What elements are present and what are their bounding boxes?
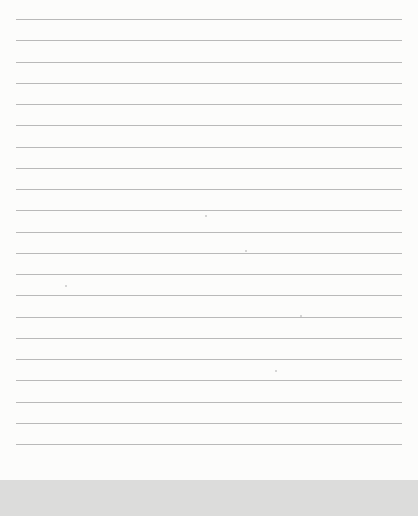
ruled-line [16, 359, 402, 360]
ruled-line [16, 147, 402, 148]
ruled-line [16, 338, 402, 339]
ruled-line [16, 402, 402, 403]
ruled-line [16, 62, 402, 63]
ruled-line [16, 423, 402, 424]
scan-speck [205, 215, 207, 217]
ruled-line [16, 380, 402, 381]
ruled-line [16, 40, 402, 41]
ruled-line [16, 274, 402, 275]
ruled-line [16, 444, 402, 445]
ruled-line [16, 295, 402, 296]
ruled-line [16, 210, 402, 211]
scan-speck [300, 315, 302, 317]
scan-speck [275, 370, 277, 372]
scan-speck [65, 285, 67, 287]
ruled-line [16, 168, 402, 169]
ruled-line [16, 104, 402, 105]
ruled-line [16, 83, 402, 84]
ruled-line [16, 232, 402, 233]
scan-bottom-margin [0, 480, 418, 516]
ruled-line [16, 125, 402, 126]
ruled-line [16, 317, 402, 318]
ruled-line [16, 189, 402, 190]
lined-paper-sheet [0, 0, 418, 480]
scan-speck [245, 250, 247, 252]
ruled-line [16, 253, 402, 254]
ruled-line [16, 19, 402, 20]
